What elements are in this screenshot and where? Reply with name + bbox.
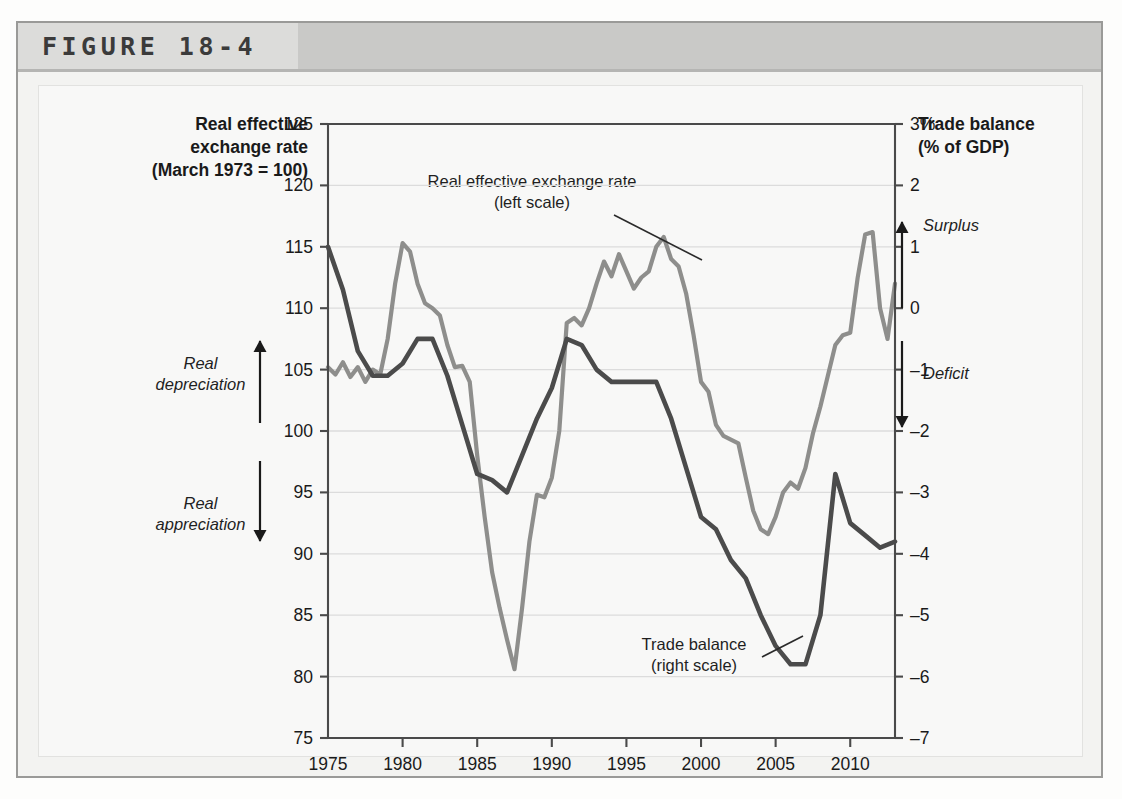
x-tick-2005: 2005: [756, 754, 795, 774]
left-tick-120: 120: [284, 175, 313, 195]
right-tick-neg3: –3: [910, 482, 929, 502]
exchange-rate-line: [328, 232, 895, 669]
page-background: FIGURE 18-4 Real effective exchange rate…: [0, 0, 1122, 799]
direction-arrows: [254, 221, 909, 542]
x-tick-2010: 2010: [831, 754, 870, 774]
figure-box: FIGURE 18-4 Real effective exchange rate…: [16, 21, 1103, 778]
right-tick-neg6: –6: [910, 667, 929, 687]
gridlines: [328, 124, 895, 677]
right-tick-neg1: –1: [910, 360, 929, 380]
x-tick-2000: 2000: [682, 754, 721, 774]
left-tick-85: 85: [294, 605, 313, 625]
right-tick-neg7: –7: [910, 728, 929, 748]
left-tick-90: 90: [294, 544, 314, 564]
left-tick-110: 110: [285, 298, 313, 318]
right-tick-3pct: 3%: [910, 114, 935, 134]
left-tick-95: 95: [294, 482, 313, 502]
x-axis-tick-labels: 19751980198519901995200020052010: [309, 754, 870, 774]
x-tick-1990: 1990: [532, 754, 571, 774]
left-tick-100: 100: [284, 421, 313, 441]
left-tick-125: 125: [284, 114, 313, 134]
x-tick-1980: 1980: [383, 754, 422, 774]
right-axis-tick-labels: –7–6–5–4–3–2–10123%: [910, 114, 935, 748]
axis-ticks: [320, 124, 903, 747]
left-tick-115: 115: [285, 237, 313, 257]
left-tick-80: 80: [294, 667, 314, 687]
right-tick-neg4: –4: [910, 544, 930, 564]
left-tick-75: 75: [294, 728, 313, 748]
right-tick-2: 2: [910, 175, 920, 195]
right-tick-1: 1: [910, 237, 920, 257]
left-axis-tick-labels: 7580859095100105110115120125: [284, 114, 313, 748]
callout-leader-lines: [614, 215, 803, 657]
chart-plot: 7580859095100105110115120125 –7–6–5–4–3–…: [18, 23, 1101, 776]
x-tick-1985: 1985: [458, 754, 497, 774]
right-tick-0: 0: [910, 298, 920, 318]
x-tick-1995: 1995: [607, 754, 646, 774]
right-tick-neg2: –2: [910, 421, 929, 441]
right-tick-neg5: –5: [910, 605, 929, 625]
left-tick-105: 105: [284, 360, 313, 380]
x-tick-1975: 1975: [309, 754, 348, 774]
